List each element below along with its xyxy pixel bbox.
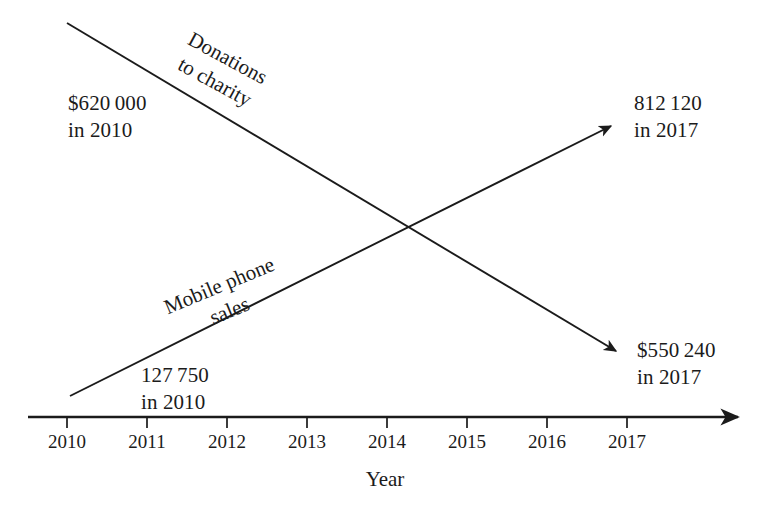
series-line-donations — [67, 23, 616, 351]
annotation-donations-end-value: $550 240 — [637, 337, 716, 364]
x-tick-label-2017: 2017 — [608, 430, 646, 454]
x-tick-label-2014: 2014 — [368, 430, 406, 454]
annotation-sales-start: 127 750 in 2010 — [141, 362, 209, 416]
x-axis-ticks — [67, 417, 627, 428]
annotation-donations-end-year: in 2017 — [637, 364, 716, 391]
x-axis-title: Year — [366, 466, 405, 493]
x-tick-label-2016: 2016 — [528, 430, 566, 454]
annotation-sales-end-value: 812 120 — [634, 90, 702, 117]
x-tick-label-2011: 2011 — [128, 430, 165, 454]
x-tick-label-2015: 2015 — [448, 430, 486, 454]
x-tick-label-2012: 2012 — [208, 430, 246, 454]
annotation-sales-start-year: in 2010 — [141, 389, 209, 416]
annotation-donations-start-value: $620 000 — [68, 90, 147, 117]
series-line-mobile-phone-sales — [70, 126, 611, 396]
annotation-sales-end-year: in 2017 — [634, 117, 702, 144]
x-tick-label-2013: 2013 — [288, 430, 326, 454]
annotation-sales-start-value: 127 750 — [141, 362, 209, 389]
annotation-donations-start-year: in 2010 — [68, 117, 147, 144]
annotation-donations-end: $550 240 in 2017 — [637, 337, 716, 391]
x-tick-label-2010: 2010 — [48, 430, 86, 454]
annotation-sales-end: 812 120 in 2017 — [634, 90, 702, 144]
chart-canvas: Donations to charity Mobile phone sales … — [0, 0, 776, 505]
annotation-donations-start: $620 000 in 2010 — [68, 90, 147, 144]
